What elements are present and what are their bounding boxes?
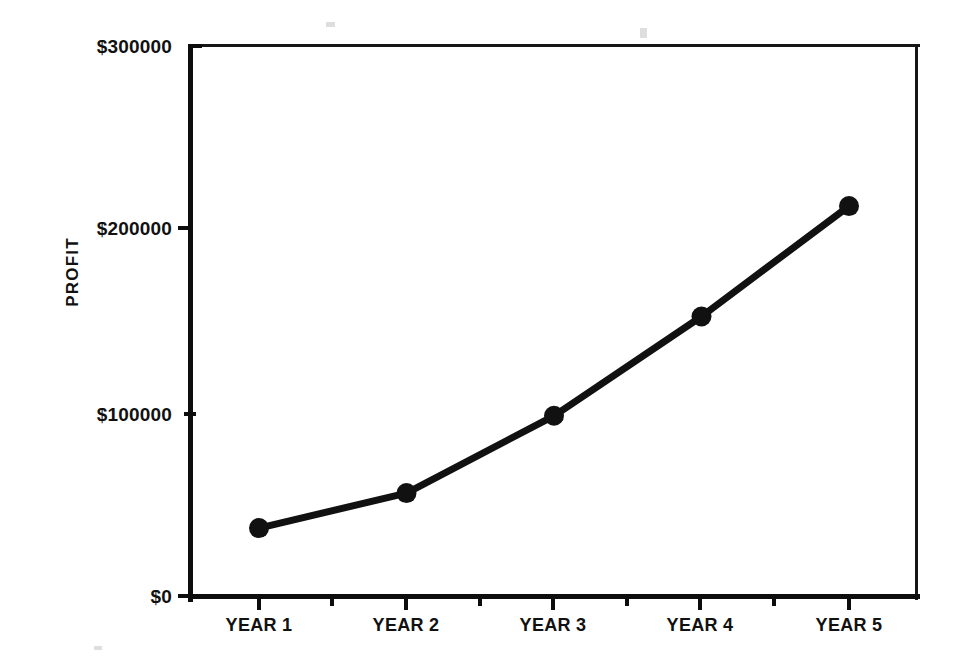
line-series-profit — [0, 0, 964, 671]
data-point-5 — [839, 196, 859, 216]
data-point-4 — [692, 307, 712, 327]
data-point-3 — [544, 406, 564, 426]
chart-canvas: $300000 $200000 $100000 $0 YEAR 1 YEAR 2… — [0, 0, 964, 671]
data-point-1 — [249, 518, 269, 538]
data-point-2 — [397, 483, 417, 503]
profit-polyline — [259, 206, 849, 528]
profit-marker-group — [249, 196, 859, 538]
